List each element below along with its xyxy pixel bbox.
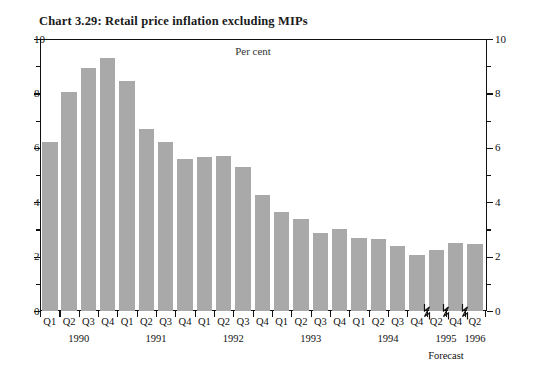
x-axis-year-label: 1996 — [453, 333, 497, 345]
y-axis-tick — [36, 66, 40, 67]
y-axis-tick — [487, 66, 491, 67]
y-axis-tick — [487, 284, 491, 285]
y-axis-tick — [487, 257, 493, 258]
y-axis-tick — [36, 121, 40, 122]
bar — [235, 167, 251, 311]
bar — [313, 233, 329, 311]
y-axis-tick — [36, 229, 40, 230]
y-axis-tick — [487, 311, 493, 312]
bar — [216, 156, 232, 311]
bar — [197, 157, 213, 311]
bar — [274, 212, 290, 311]
bar — [390, 246, 406, 311]
x-axis-year-label: 1991 — [134, 333, 178, 345]
bar — [293, 219, 309, 311]
bar — [42, 142, 58, 311]
y-axis-tick — [487, 175, 491, 176]
bar — [100, 58, 116, 311]
bar — [351, 238, 367, 311]
y-axis-tick — [36, 284, 40, 285]
x-axis-quarter-label: Q2 — [464, 316, 486, 328]
x-axis-year-label: 1994 — [366, 333, 410, 345]
bar — [467, 244, 483, 311]
y-axis-label-right: 4 — [495, 197, 501, 208]
y-axis-tick — [487, 229, 491, 230]
chart-title: Chart 3.29: Retail price inflation exclu… — [39, 14, 308, 29]
y-axis-tick — [487, 148, 493, 149]
bar — [448, 243, 464, 311]
y-axis-tick — [487, 39, 493, 40]
y-axis-tick — [487, 121, 491, 122]
y-axis-tick — [487, 93, 493, 94]
forecast-note: Forecast — [411, 350, 481, 361]
bar — [119, 81, 135, 311]
bar — [371, 239, 387, 311]
bar — [139, 129, 155, 311]
bar — [61, 92, 77, 311]
bar — [429, 250, 445, 311]
y-axis-label-right: 6 — [495, 142, 501, 153]
y-axis-label-right: 2 — [495, 251, 501, 262]
bar — [158, 142, 174, 311]
x-axis-year-label: 1990 — [57, 333, 101, 345]
y-axis-label-right: 10 — [495, 34, 506, 45]
bar — [332, 229, 348, 311]
bars-layer — [40, 39, 487, 311]
y-axis-label-right: 8 — [495, 88, 501, 99]
bar — [177, 159, 193, 311]
y-axis-tick — [36, 175, 40, 176]
bar — [255, 195, 271, 311]
x-axis-year-label: 1992 — [211, 333, 255, 345]
y-axis-label-right: 0 — [495, 306, 501, 317]
x-axis-year-label: 1993 — [289, 333, 333, 345]
chart-container: Chart 3.29: Retail price inflation exclu… — [0, 0, 534, 381]
y-axis-tick — [487, 202, 493, 203]
bar — [81, 68, 97, 311]
